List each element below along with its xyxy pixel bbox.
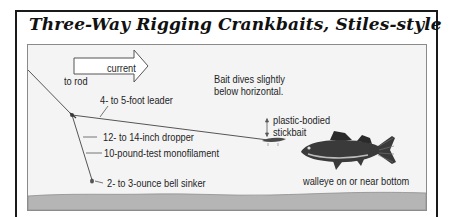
bait-dives-label-line1: Bait dives slightly	[214, 73, 285, 85]
sinker-label: 2- to 3-ounce bell sinker	[107, 177, 206, 189]
stickbait-label-line1: plastic-bodied	[273, 114, 330, 126]
leader-callout	[100, 106, 108, 117]
up-down-arrow-icon	[266, 119, 269, 137]
bait-dives-label-line2: below horizontal.	[214, 85, 283, 97]
stickbait-label-line2: stickbait	[273, 126, 306, 138]
monofilament-label: 10-pound-test monofilament	[104, 147, 219, 159]
dropper-line	[72, 115, 92, 180]
lake-bottom	[28, 192, 426, 210]
walleye-label: walleye on or near bottom	[303, 175, 409, 187]
bell-sinker-icon	[90, 178, 94, 183]
stickbait-lure-icon	[262, 138, 286, 146]
current-label: current	[107, 62, 136, 74]
to-rod-label: to rod	[64, 75, 88, 87]
sinker-callout	[95, 181, 103, 183]
leader-label: 4- to 5-foot leader	[100, 94, 173, 106]
dropper-label: 12- to 14-inch dropper	[103, 131, 194, 143]
walleye-fish-icon	[301, 131, 396, 170]
